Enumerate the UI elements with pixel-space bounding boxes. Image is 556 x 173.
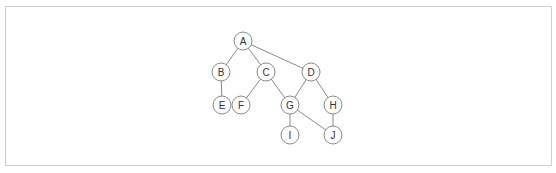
node-label: B bbox=[218, 67, 225, 78]
node-e: E bbox=[213, 96, 231, 114]
node-f: F bbox=[232, 96, 250, 114]
node-d: D bbox=[302, 63, 320, 81]
edge-a-d bbox=[243, 41, 311, 72]
node-label: J bbox=[331, 130, 336, 141]
node-a: A bbox=[234, 32, 252, 50]
node-label: F bbox=[238, 100, 244, 111]
node-label: E bbox=[219, 100, 226, 111]
node-j: J bbox=[324, 126, 342, 144]
node-label: I bbox=[289, 130, 292, 141]
node-label: G bbox=[286, 100, 294, 111]
node-h: H bbox=[324, 96, 342, 114]
node-c: C bbox=[257, 63, 275, 81]
node-label: C bbox=[262, 67, 269, 78]
node-b: B bbox=[212, 63, 230, 81]
node-i: I bbox=[281, 126, 299, 144]
graph-diagram: ABCDEFGHIJ bbox=[0, 0, 556, 173]
node-label: D bbox=[307, 67, 314, 78]
node-g: G bbox=[281, 96, 299, 114]
node-label: A bbox=[240, 36, 247, 47]
node-label: H bbox=[329, 100, 336, 111]
edges-layer bbox=[221, 41, 333, 135]
